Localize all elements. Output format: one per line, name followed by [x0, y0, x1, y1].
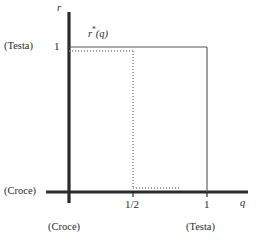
best-response-figure: r q r*(q) 1 (Testa) (Croce) 1/2 1 (Croce… [0, 0, 256, 244]
y-axis-label: r [57, 3, 61, 14]
y-tick-label-one: 1 [54, 41, 60, 52]
x-endpoint-label-testa: (Testa) [186, 222, 215, 233]
x-axis-label: q [240, 198, 245, 209]
curve-label-arg: (q) [96, 28, 108, 39]
x-tick-label-one: 1 [204, 199, 210, 210]
x-endpoint-label-croce: (Croce) [48, 222, 80, 233]
y-endpoint-label-testa: (Testa) [4, 41, 33, 52]
x-tick-label-half: 1/2 [125, 199, 139, 210]
y-endpoint-label-croce: (Croce) [4, 186, 36, 197]
curve-label: r*(q) [88, 26, 108, 39]
